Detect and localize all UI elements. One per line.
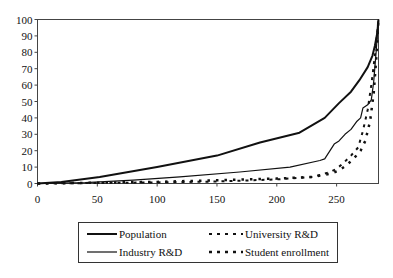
y-tick-label: 20 <box>22 145 34 157</box>
legend-swatch-solid-thin <box>87 249 117 255</box>
legend: Population University R&D Industry R&D S… <box>78 222 338 263</box>
x-tick-label: 0 <box>35 193 41 205</box>
y-tick-label: 100 <box>16 14 33 26</box>
legend-label: Student enrollment <box>245 246 329 258</box>
y-tick-label: 80 <box>22 46 34 58</box>
chart: 0102030405060708090100 050100150200250 <box>0 0 393 220</box>
series-layer <box>38 20 379 184</box>
y-tick-label: 90 <box>22 30 34 42</box>
y-tick-label: 40 <box>22 112 34 124</box>
x-tick-label: 200 <box>269 193 286 205</box>
legend-label: Population <box>119 228 167 240</box>
legend-swatch-dotted <box>207 249 243 255</box>
legend-swatch-dashed <box>207 231 243 237</box>
legend-item-student-enrollment: Student enrollment <box>207 244 329 260</box>
legend-label: Industry R&D <box>119 246 182 258</box>
x-tick-label: 50 <box>92 193 104 205</box>
y-tick-label: 30 <box>22 128 34 140</box>
series-line-student-enrollment <box>38 20 379 184</box>
series-line-population <box>38 20 379 184</box>
series-line-industry-r-d <box>38 20 379 184</box>
y-tick-label: 50 <box>22 96 34 108</box>
x-tick-label: 100 <box>149 193 166 205</box>
legend-item-industry-rd: Industry R&D <box>87 244 182 260</box>
y-tick-label: 0 <box>27 178 33 190</box>
y-axis: 0102030405060708090100 <box>16 14 38 190</box>
x-axis: 050100150200250 <box>35 184 346 205</box>
legend-item-university-rd: University R&D <box>207 226 318 242</box>
legend-label: University R&D <box>245 228 318 240</box>
x-tick-label: 250 <box>328 193 345 205</box>
series-line-university-r-d <box>38 20 379 184</box>
y-tick-label: 70 <box>22 63 34 75</box>
y-tick-label: 10 <box>22 161 34 173</box>
plot-area <box>38 20 379 184</box>
x-tick-label: 150 <box>209 193 226 205</box>
legend-swatch-solid-thick <box>87 231 117 237</box>
legend-item-population: Population <box>87 226 167 242</box>
y-tick-label: 60 <box>22 79 34 91</box>
